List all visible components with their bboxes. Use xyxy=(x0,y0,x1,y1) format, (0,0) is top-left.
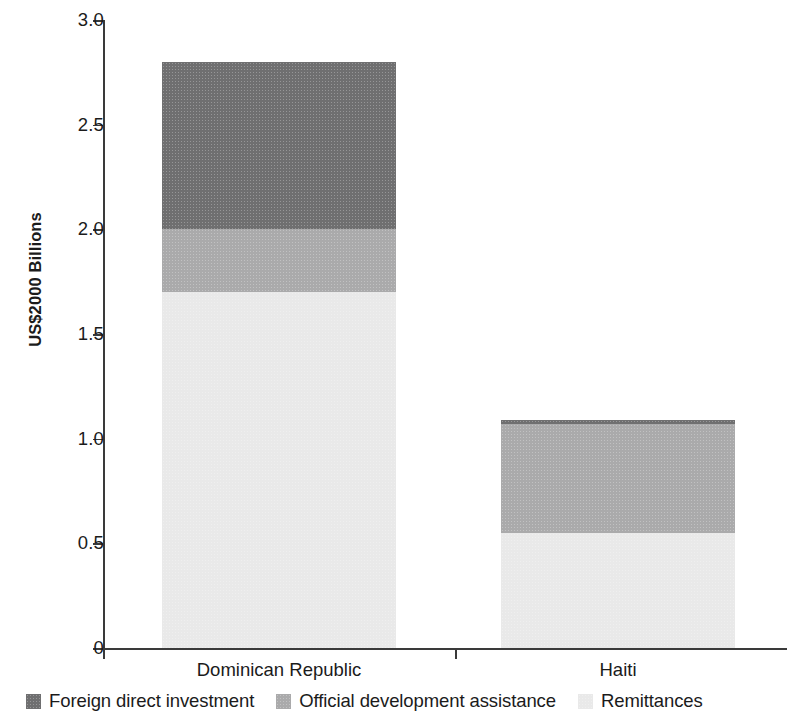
y-axis-tick-label: 3.0 xyxy=(18,9,104,31)
bar-segment-dominican-republic-remittances xyxy=(162,292,396,648)
y-axis-tick-label: 2.5 xyxy=(18,114,104,136)
chart-legend: Foreign direct investment Official devel… xyxy=(26,690,703,712)
legend-swatch-icon-remittances xyxy=(578,694,593,709)
y-axis-tick-label: 0.5 xyxy=(18,532,104,554)
legend-label-remittances: Remittances xyxy=(601,690,703,712)
bar-segment-haiti-official-development-assistance xyxy=(501,424,735,533)
y-axis-tick-label: 2.0 xyxy=(18,218,104,240)
legend-swatch-icon-official-development-assistance xyxy=(276,694,291,709)
legend-item-foreign-direct-investment[interactable]: Foreign direct investment xyxy=(26,690,276,712)
x-axis-tick-divider xyxy=(455,648,457,659)
y-axis-tick-label: 0 xyxy=(18,637,104,659)
x-category-label-dominican-republic: Dominican Republic xyxy=(162,659,396,681)
x-axis-line xyxy=(103,648,787,650)
stacked-bar-chart: US$2000 Billions 3.02.52.01.51.00.50 Dom… xyxy=(0,0,787,715)
bar-segment-dominican-republic-official-development-assistance xyxy=(162,229,396,292)
bar-segment-dominican-republic-foreign-direct-investment xyxy=(162,62,396,229)
legend-label-official-development-assistance: Official development assistance xyxy=(299,690,556,712)
bar-segment-haiti-remittances xyxy=(501,533,735,648)
legend-item-remittances[interactable]: Remittances xyxy=(578,690,703,712)
legend-swatch-icon-foreign-direct-investment xyxy=(26,694,41,709)
x-axis-tick-origin xyxy=(103,648,105,659)
legend-label-foreign-direct-investment: Foreign direct investment xyxy=(49,690,254,712)
x-category-label-haiti: Haiti xyxy=(501,659,735,681)
y-axis-tick-label: 1.5 xyxy=(18,323,104,345)
y-axis-title: US$2000 Billions xyxy=(26,160,45,400)
legend-item-official-development-assistance[interactable]: Official development assistance xyxy=(276,690,578,712)
y-axis-tick-label: 1.0 xyxy=(18,428,104,450)
bar-segment-haiti-foreign-direct-investment xyxy=(501,420,735,424)
